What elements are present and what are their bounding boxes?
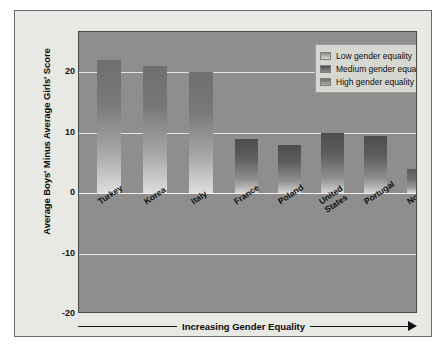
y-tick-neg20: -20 — [62, 309, 75, 318]
arrow-line-left — [78, 326, 177, 327]
legend-item-low: Low gender equality — [320, 49, 417, 62]
y-tick-neg10: -10 — [62, 249, 75, 258]
legend-label-low: Low gender equality — [336, 51, 412, 61]
chart-legend: Low gender equality Medium gender equali… — [315, 44, 417, 93]
x-axis-annotation: Increasing Gender Equality — [78, 317, 417, 335]
x-axis-annotation-label: Increasing Gender Equality — [177, 321, 310, 332]
legend-swatch-high-icon — [320, 78, 331, 86]
y-tick-0: 0 — [70, 188, 75, 197]
legend-swatch-low-icon — [320, 52, 331, 60]
chart-figure: 20 10 0 -10 -20 Average Boys' Minus Aver… — [0, 0, 446, 347]
legend-item-medium: Medium gender equality — [320, 62, 417, 75]
arrow-right-icon — [408, 321, 417, 331]
gridline-neg10 — [79, 254, 416, 255]
chart-panel: 20 10 0 -10 -20 Average Boys' Minus Aver… — [14, 10, 432, 337]
bar-united-states — [321, 133, 344, 193]
bar-italy — [189, 72, 213, 193]
legend-swatch-medium-icon — [320, 65, 331, 73]
bar-turkey — [97, 60, 121, 193]
y-tick-10: 10 — [65, 128, 75, 137]
arrow-line-right — [310, 326, 409, 327]
legend-label-medium: Medium gender equality — [336, 64, 417, 74]
plot-area: Turkey Korea Italy France Poland UnitedS… — [78, 31, 417, 313]
legend-item-high: High gender equality — [320, 75, 417, 88]
legend-label-high: High gender equality — [336, 77, 414, 87]
bar-korea — [143, 66, 167, 193]
y-axis-title: Average Boys' Minus Average Girls' Score — [41, 32, 52, 252]
gridline-10 — [79, 133, 416, 134]
y-tick-20: 20 — [65, 67, 75, 76]
